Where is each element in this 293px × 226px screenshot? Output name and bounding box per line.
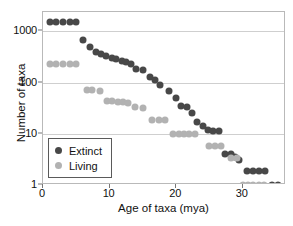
legend-item[interactable]: Living: [55, 158, 102, 173]
chart-figure: Number of taxa 1101001000 0102030 Age of…: [0, 0, 293, 226]
legend-item-label: Extinct: [69, 145, 102, 157]
legend-swatch-icon: [55, 147, 62, 154]
x-tick-mark: [175, 184, 176, 188]
legend-item[interactable]: Extinct: [55, 143, 102, 158]
legend-swatch-icon: [55, 162, 62, 169]
chart-legend: ExtinctLiving: [48, 138, 112, 178]
x-tick-label: 10: [103, 187, 115, 199]
x-axis-ticks: 0102030: [0, 0, 293, 226]
x-tick-mark: [42, 184, 43, 188]
legend-item-label: Living: [69, 160, 98, 172]
x-tick-label: 20: [169, 187, 181, 199]
x-tick-label: 0: [39, 187, 45, 199]
x-tick-mark: [242, 184, 243, 188]
x-tick-mark: [109, 184, 110, 188]
x-axis-title: Age of taxa (mya): [42, 202, 285, 214]
x-tick-label: 30: [236, 187, 248, 199]
